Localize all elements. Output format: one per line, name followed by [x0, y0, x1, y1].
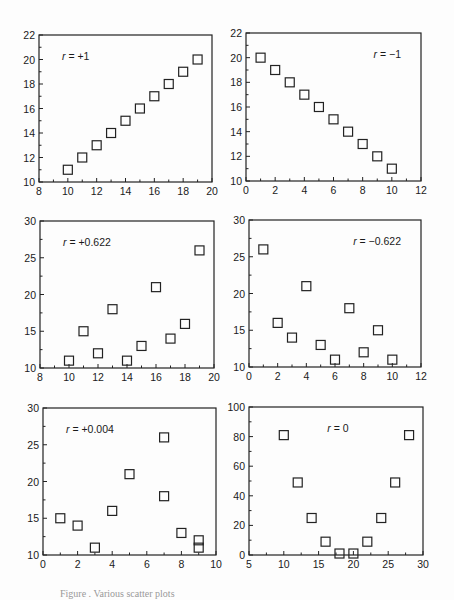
scatter-plot-4: 0246810121015202530r = −0.622 [233, 214, 427, 382]
y-tick-label: 12 [23, 152, 35, 164]
data-point-marker [273, 318, 282, 327]
x-tick-label: 8 [37, 371, 43, 383]
data-point-marker [321, 537, 330, 546]
x-tick-label: 2 [272, 184, 278, 196]
data-point-marker [121, 116, 130, 125]
y-tick-label: 15 [233, 324, 245, 336]
data-point-marker [92, 141, 101, 150]
data-point-marker [177, 528, 186, 537]
data-point-marker [137, 341, 146, 350]
scatter-plot-5: 02468101015202530r = +0.004 [27, 402, 222, 570]
data-point-marker [359, 348, 368, 357]
data-point-marker [108, 305, 117, 314]
data-point-marker [363, 537, 372, 546]
data-point-marker [107, 129, 116, 138]
x-tick-label: 16 [148, 185, 160, 197]
data-point-marker [374, 326, 383, 335]
x-tick-label: 4 [109, 558, 115, 570]
x-tick-label: 20 [348, 558, 360, 570]
data-point-marker [331, 355, 340, 364]
data-point-marker [160, 492, 169, 501]
y-tick-label: 30 [24, 215, 36, 227]
data-point-marker [193, 55, 202, 64]
x-tick-label: 2 [275, 370, 281, 382]
y-tick-label: 10 [233, 361, 245, 373]
x-tick-label: 14 [121, 371, 133, 383]
data-point-marker [56, 514, 65, 523]
x-tick-label: 12 [91, 185, 103, 197]
y-tick-label: 10 [230, 175, 242, 187]
correlation-annotation: r = +0.004 [66, 423, 114, 435]
data-point-marker [285, 78, 294, 87]
y-tick-label: 22 [23, 29, 35, 41]
scatter-plot-1: 810121416182010121416182022r = +1 [23, 29, 218, 197]
x-tick-label: 0 [246, 370, 252, 382]
x-tick-label: 6 [331, 184, 337, 196]
data-point-marker [300, 90, 309, 99]
x-tick-label: 20 [208, 371, 220, 383]
x-tick-label: 10 [278, 558, 290, 570]
data-point-marker [63, 165, 72, 174]
data-point-marker [79, 327, 88, 336]
y-tick-label: 20 [233, 288, 245, 300]
y-tick-label: 15 [27, 512, 39, 524]
data-point-marker [316, 340, 325, 349]
data-point-marker [123, 356, 132, 365]
data-point-marker [90, 543, 99, 552]
y-tick-label: 20 [23, 54, 35, 66]
data-point-marker [377, 514, 386, 523]
data-point-marker [73, 521, 82, 530]
figure-caption: Figure . Various scatter plots [60, 588, 175, 599]
x-tick-label: 4 [303, 370, 309, 382]
x-tick-label: 8 [36, 185, 42, 197]
x-tick-label: 12 [92, 371, 104, 383]
y-tick-label: 16 [230, 101, 242, 113]
x-tick-label: 15 [313, 558, 325, 570]
x-tick-label: 10 [386, 370, 398, 382]
data-point-marker [259, 245, 268, 254]
correlation-annotation: r = −0.622 [353, 235, 401, 247]
y-tick-label: 16 [23, 103, 35, 115]
y-tick-label: 20 [24, 289, 36, 301]
y-tick-label: 10 [24, 362, 36, 374]
data-point-marker [135, 104, 144, 113]
x-tick-label: 2 [75, 558, 81, 570]
scatter-plot-2: 02468101210121416182022r = −1 [230, 27, 427, 196]
x-tick-label: 30 [417, 558, 429, 570]
data-point-marker [179, 67, 188, 76]
x-tick-label: 12 [415, 184, 427, 196]
y-tick-label: 40 [233, 490, 245, 502]
y-tick-label: 80 [233, 431, 245, 443]
y-tick-label: 25 [27, 439, 39, 451]
data-point-marker [358, 140, 367, 149]
x-tick-label: 16 [150, 371, 162, 383]
data-point-marker [94, 349, 103, 358]
x-tick-label: 8 [178, 558, 184, 570]
data-point-marker [344, 127, 353, 136]
x-tick-label: 25 [382, 558, 394, 570]
data-point-marker [150, 92, 159, 101]
data-point-marker [293, 478, 302, 487]
y-tick-label: 12 [230, 150, 242, 162]
data-point-marker [405, 431, 414, 440]
y-tick-label: 25 [233, 251, 245, 263]
data-point-marker [65, 356, 74, 365]
y-tick-label: 20 [230, 52, 242, 64]
data-point-marker [288, 333, 297, 342]
x-tick-label: 18 [177, 185, 189, 197]
y-tick-label: 14 [230, 126, 242, 138]
data-point-marker [78, 153, 87, 162]
data-point-marker [125, 470, 134, 479]
y-tick-label: 14 [23, 127, 35, 139]
y-tick-label: 18 [230, 76, 242, 88]
x-tick-label: 0 [40, 558, 46, 570]
data-point-marker [256, 53, 265, 62]
data-point-marker [181, 319, 190, 328]
correlation-annotation: r = 0 [327, 422, 348, 434]
data-point-marker [108, 506, 117, 515]
data-point-marker [195, 246, 204, 255]
y-tick-label: 0 [239, 549, 245, 561]
x-tick-label: 4 [301, 184, 307, 196]
data-point-marker [307, 514, 316, 523]
data-point-marker [388, 355, 397, 364]
